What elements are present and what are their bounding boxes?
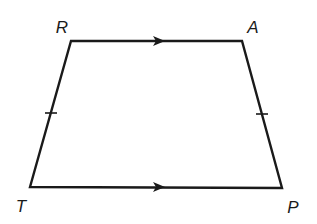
trapezoid-diagram: R A P T [0, 0, 317, 224]
diagram-canvas [0, 0, 317, 224]
vertex-label-r: R [56, 19, 68, 36]
trapezoid-rapt [30, 41, 282, 188]
vertex-label-a: A [247, 19, 258, 36]
vertex-label-p: P [287, 199, 298, 216]
vertex-label-t: T [16, 198, 26, 215]
